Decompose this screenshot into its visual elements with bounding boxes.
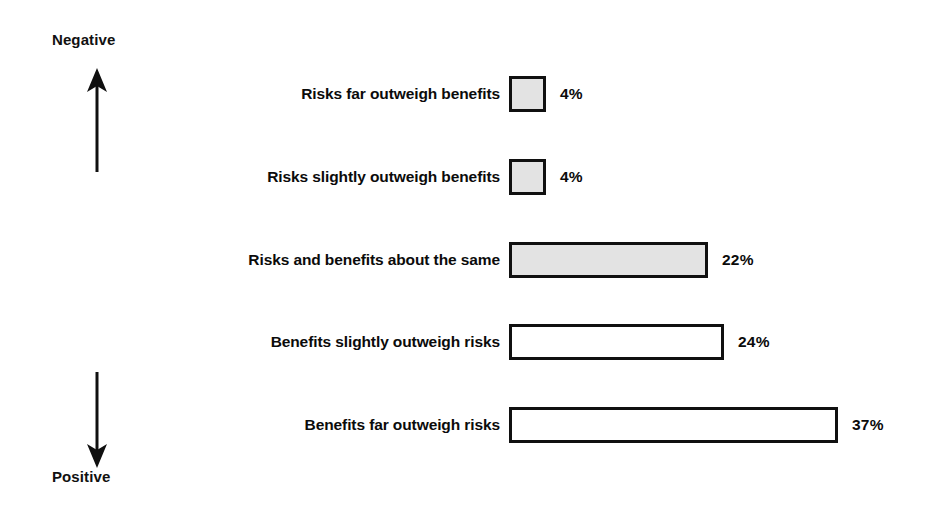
bar-track: 4% xyxy=(509,76,583,112)
bar-value-label: 22% xyxy=(722,251,754,269)
bar-4 xyxy=(509,407,838,443)
bar-row: Risks far outweigh benefits 4% xyxy=(0,74,943,114)
bar-value-label: 4% xyxy=(560,85,583,103)
bar-track: 22% xyxy=(509,242,754,278)
bar-row: Benefits far outweigh risks 37% xyxy=(0,405,943,445)
risk-benefit-bar-chart: Negative Positive Risks far outweigh ben… xyxy=(0,0,943,521)
bar-value-label: 4% xyxy=(560,168,583,186)
axis-label-negative: Negative xyxy=(52,31,115,48)
bar-1 xyxy=(509,159,546,195)
bar-row: Risks slightly outweigh benefits 4% xyxy=(0,157,943,197)
bar-row: Benefits slightly outweigh risks 24% xyxy=(0,322,943,362)
bar-value-label: 24% xyxy=(738,333,770,351)
bar-2 xyxy=(509,242,708,278)
bar-track: 24% xyxy=(509,324,770,360)
bar-value-label: 37% xyxy=(852,416,884,434)
bar-0 xyxy=(509,76,546,112)
bar-category-label: Risks and benefits about the same xyxy=(248,240,500,280)
bar-row: Risks and benefits about the same 22% xyxy=(0,240,943,280)
bar-category-label: Risks far outweigh benefits xyxy=(301,74,500,114)
bar-3 xyxy=(509,324,724,360)
bar-track: 37% xyxy=(509,407,884,443)
axis-label-positive: Positive xyxy=(52,468,110,485)
bar-category-label: Risks slightly outweigh benefits xyxy=(267,157,500,197)
bar-track: 4% xyxy=(509,159,583,195)
bar-category-label: Benefits slightly outweigh risks xyxy=(271,322,500,362)
bar-category-label: Benefits far outweigh risks xyxy=(305,405,500,445)
